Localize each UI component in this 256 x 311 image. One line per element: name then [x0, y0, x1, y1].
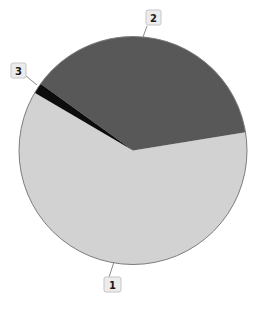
slice-label-1: 1: [109, 280, 116, 291]
pie-chart: 123: [0, 0, 256, 311]
pie-chart-figure: 123: [0, 0, 256, 311]
leader-line-1: [109, 262, 114, 277]
leader-line-3: [26, 76, 37, 85]
leader-line-2: [143, 26, 147, 37]
slice-label-2: 2: [150, 13, 157, 24]
slice-label-3: 3: [15, 66, 22, 77]
